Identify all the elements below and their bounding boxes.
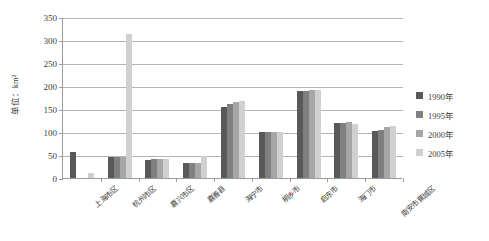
legend-swatch-icon (416, 149, 423, 156)
legend-swatch-icon (416, 92, 423, 99)
bar-group (176, 17, 214, 178)
legend-swatch-icon (416, 130, 423, 137)
y-axis-tick-label: 250 (44, 59, 58, 69)
chart-legend: 1990年1995年2000年2005年 (416, 86, 486, 162)
x-axis-tick-label: 启东市 (317, 183, 340, 205)
bar-group (327, 17, 365, 178)
bar (201, 156, 207, 178)
y-axis-title: 单位：km² (8, 60, 22, 130)
y-axis-tick-label: 350 (44, 13, 58, 23)
x-axis-tick-mark (365, 178, 366, 182)
legend-item[interactable]: 1990年 (416, 86, 486, 105)
bar (163, 159, 169, 178)
bar (277, 132, 283, 178)
x-axis-tick-label: 上海市区 (92, 183, 121, 209)
x-axis-tick-label: 嘉善县 (204, 183, 227, 205)
x-axis-tick-mark (252, 178, 253, 182)
x-axis-tick-mark (290, 178, 291, 182)
x-axis-tick-label: 嘉兴市区 (168, 183, 197, 209)
bar (70, 152, 76, 178)
bar-group (139, 17, 177, 178)
bar-group (101, 17, 139, 178)
x-axis-tick-mark (101, 178, 102, 182)
legend-label: 1995年 (428, 109, 454, 121)
legend-item[interactable]: 2005年 (416, 143, 486, 162)
x-axis-tick-mark (176, 178, 177, 182)
y-axis-tick-label: 0 (53, 174, 58, 184)
bar (126, 34, 132, 178)
legend-label: 2000年 (428, 128, 454, 140)
x-axis-tick-mark (214, 178, 215, 182)
y-axis-tick-label: 50 (48, 151, 57, 161)
plot-area: 050100150200250300350 (62, 18, 402, 179)
x-axis-tick-mark (327, 178, 328, 182)
y-axis-tick-label: 150 (44, 105, 58, 115)
y-axis-tick-label: 300 (44, 36, 58, 46)
legend-label: 2005年 (428, 147, 454, 159)
legend-label: 1990年 (428, 90, 454, 102)
legend-item[interactable]: 1995年 (416, 105, 486, 124)
x-axis-tick-label: 海门市 (355, 183, 378, 205)
bar (88, 173, 94, 178)
bar (390, 126, 396, 178)
bar-group (214, 17, 252, 178)
x-axis-tick-label: 杭州市区 (130, 183, 159, 209)
bar-group (252, 17, 290, 178)
bar-group (365, 17, 403, 178)
x-axis-tick-mark (403, 178, 404, 182)
legend-item[interactable]: 2000年 (416, 124, 486, 143)
y-axis-tick-label: 200 (44, 82, 58, 92)
bar-chart: 单位：km² 050100150200250300350 上海市区杭州市区嘉兴市… (0, 0, 489, 241)
x-axis-tick-label: 南安市蕉城区 (397, 183, 436, 218)
bar (315, 90, 321, 178)
x-axis-tick-label: 桐乡市 (279, 183, 302, 205)
bar-group (290, 17, 328, 178)
x-axis-tick-label: 海宁市 (241, 183, 264, 205)
x-axis-tick-mark (139, 178, 140, 182)
bar (239, 101, 245, 178)
bar-group (63, 17, 101, 178)
bar (352, 124, 358, 178)
legend-swatch-icon (416, 111, 423, 118)
y-axis-tick-mark (59, 179, 63, 180)
y-axis-tick-label: 100 (44, 128, 58, 138)
